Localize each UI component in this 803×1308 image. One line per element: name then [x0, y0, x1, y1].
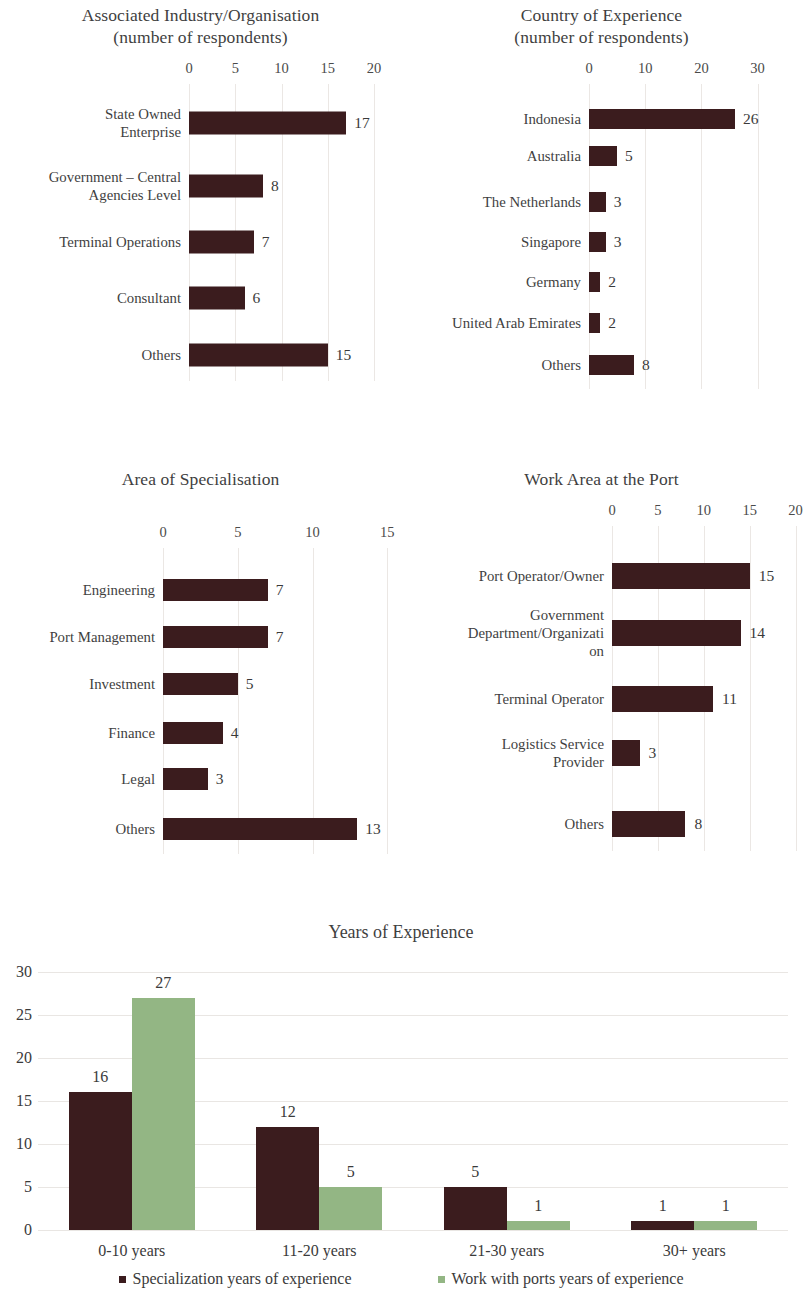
bar: [612, 686, 713, 712]
bar: [69, 1092, 132, 1230]
bar: [589, 232, 606, 252]
bar-category-label-line: Indonesia: [405, 110, 581, 128]
bar-category-label: State OwnedEnterprise: [4, 105, 181, 141]
bar-category-label-line: Legal: [4, 770, 155, 788]
bar-category-label-line: Agencies Level: [4, 186, 181, 204]
bar: [163, 768, 208, 790]
bar-category-label: Others: [405, 815, 604, 833]
axis-tick-label: 0: [159, 524, 166, 541]
axis-tick-label: 0: [608, 502, 615, 519]
bar-category-label-line: Others: [4, 346, 181, 364]
bar: [589, 109, 735, 129]
bar-value-label: 27: [155, 974, 171, 992]
bar: [163, 818, 357, 840]
legend-label: Work with ports years of experience: [452, 1270, 684, 1288]
bar: [319, 1187, 382, 1230]
plot-area: 05101520Port Operator/Owner15GovernmentD…: [401, 502, 802, 842]
bar: [189, 175, 263, 198]
bar: [694, 1221, 757, 1230]
y-axis-tick-label: 25: [0, 1006, 32, 1024]
axis-tick-label: 10: [305, 524, 320, 541]
axis-tick-label: 20: [788, 502, 803, 519]
bar-category-label: Consultant: [4, 289, 181, 307]
chart-title-line2: (number of respondents): [401, 26, 802, 48]
bar-value-label: 11: [722, 690, 737, 708]
bar-category-label: Investment: [4, 675, 155, 693]
axis-tick-label: 0: [585, 60, 592, 77]
chart-associated-industry: Associated Industry/Organisation (number…: [0, 0, 401, 400]
gridline: [38, 1230, 788, 1231]
bar-category-label-line: Terminal Operator: [405, 690, 604, 708]
plot-area: 05101520State OwnedEnterprise17Governmen…: [0, 60, 401, 390]
chart-title-line1: Associated Industry/Organisation: [82, 5, 320, 25]
bar-category-label: GovernmentDepartment/Organization: [405, 606, 604, 660]
chart-area-of-specialisation: Area of Specialisation 051015Engineering…: [0, 466, 401, 856]
bar-value-label: 12: [280, 1103, 296, 1121]
bar-value-label: 6: [253, 289, 261, 307]
bar-category-label: Legal: [4, 770, 155, 788]
bar: [163, 673, 238, 695]
axis-tick-label: 5: [234, 524, 241, 541]
bar-category-label-line: Engineering: [4, 581, 155, 599]
bar-value-label: 3: [216, 770, 224, 788]
axis-tick-label: 5: [232, 60, 239, 77]
axis-tick-label: 0: [185, 60, 192, 77]
bar-value-label: 4: [231, 724, 239, 742]
bar-category-label-line: Australia: [405, 147, 581, 165]
bar: [189, 287, 245, 310]
bar-category-label-line: Others: [4, 820, 155, 838]
bar-value-label: 5: [246, 675, 254, 693]
bar-value-label: 15: [336, 346, 352, 364]
bar-category-label-line: United Arab Emirates: [405, 314, 581, 332]
bar: [589, 192, 606, 212]
plot-area: 0102030Indonesia26Australia5The Netherla…: [401, 60, 802, 390]
bar-category-label: Port Management: [4, 628, 155, 646]
chart-title-line1: Area of Specialisation: [122, 469, 280, 489]
gridline: [387, 548, 388, 854]
bar-value-label: 7: [262, 233, 270, 251]
bar-category-label-line: Germany: [405, 273, 581, 291]
bar-category-label: Germany: [405, 273, 581, 291]
bar-category-label: Port Operator/Owner: [405, 567, 604, 585]
bar: [256, 1127, 319, 1230]
bar: [612, 811, 685, 837]
axis-tick-label: 20: [694, 60, 709, 77]
bar-category-label-line: on: [405, 642, 604, 660]
bar-value-label: 3: [614, 233, 622, 251]
gridline: [374, 84, 375, 381]
bar-value-label: 1: [534, 1197, 542, 1215]
bar: [189, 344, 328, 367]
gridline: [701, 84, 702, 389]
y-axis-tick-label: 20: [0, 1049, 32, 1067]
bar-value-label: 17: [354, 114, 370, 132]
bar-value-label: 3: [614, 193, 622, 211]
chart-work-area-at-the-port: Work Area at the Port 05101520Port Opera…: [401, 466, 802, 856]
bar-value-label: 5: [471, 1163, 479, 1181]
bar-value-label: 8: [694, 815, 702, 833]
legend-item[interactable]: Specialization years of experience: [119, 1270, 352, 1288]
bar: [612, 740, 640, 766]
bar-category-label: Finance: [4, 724, 155, 742]
bar-value-label: 8: [642, 356, 650, 374]
bar-value-label: 13: [365, 820, 381, 838]
bar: [589, 313, 600, 333]
legend-item[interactable]: Work with ports years of experience: [438, 1270, 684, 1288]
bar-category-label-line: Port Management: [4, 628, 155, 646]
bar: [163, 579, 268, 601]
bar-value-label: 2: [608, 273, 616, 291]
bar-category-label: Terminal Operations: [4, 233, 181, 251]
axis-tick-label: 20: [367, 60, 382, 77]
axis-tick-label: 10: [638, 60, 653, 77]
plot-area: 05101520253016270-10 years12511-20 years…: [38, 972, 788, 1230]
x-axis-category-label: 0-10 years: [98, 1242, 165, 1260]
bar-category-label: Others: [405, 356, 581, 374]
bar-category-label-line: Finance: [4, 724, 155, 742]
bar: [589, 355, 634, 375]
bar-value-label: 16: [92, 1068, 108, 1086]
bar-value-label: 14: [750, 624, 766, 642]
bar-category-label-line: Port Operator/Owner: [405, 567, 604, 585]
gridline: [38, 972, 788, 973]
bar-category-label-line: Others: [405, 356, 581, 374]
bar-value-label: 7: [276, 628, 284, 646]
